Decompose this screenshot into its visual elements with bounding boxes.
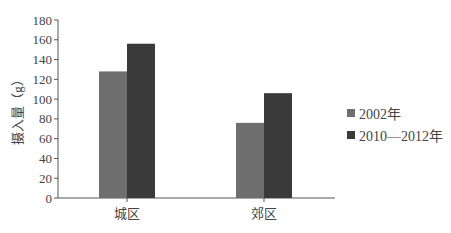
x-tick-label: 郊区 — [251, 206, 277, 221]
bar — [127, 44, 155, 198]
y-tick-label: 0 — [46, 191, 53, 206]
legend: 2002年 2010—2012年 — [347, 102, 443, 146]
y-tick-label: 140 — [33, 52, 53, 67]
y-tick-label: 80 — [39, 111, 52, 126]
y-tick-label: 20 — [39, 171, 52, 186]
y-tick-label: 120 — [33, 72, 53, 87]
y-tick-label: 100 — [33, 92, 53, 107]
bar — [264, 93, 292, 198]
y-tick-label: 160 — [33, 32, 53, 47]
legend-label-2002: 2002年 — [359, 103, 401, 123]
y-tick-label: 180 — [33, 13, 53, 28]
y-tick-label: 40 — [39, 151, 52, 166]
bar — [236, 123, 264, 198]
legend-swatch-2002 — [347, 109, 355, 117]
y-axis-label: 摄入量（g） — [10, 73, 25, 145]
legend-item-2010-2012: 2010—2012年 — [347, 124, 443, 146]
legend-item-2002: 2002年 — [347, 102, 443, 124]
y-tick-label: 60 — [39, 131, 52, 146]
bar — [99, 71, 127, 198]
x-tick-label: 城区 — [114, 206, 140, 221]
legend-swatch-2010-2012 — [347, 131, 355, 139]
legend-label-2010-2012: 2010—2012年 — [359, 125, 443, 145]
